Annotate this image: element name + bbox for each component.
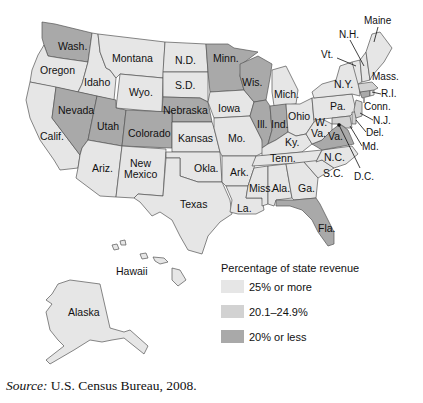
label-maine: Maine	[364, 15, 392, 26]
leader-del	[356, 120, 366, 132]
state-massachusetts	[358, 82, 378, 92]
label-vt: Vt.	[321, 49, 333, 60]
label-texas: Texas	[180, 198, 207, 210]
label-ind: Ind.	[271, 118, 289, 130]
state-new-jersey	[354, 100, 362, 118]
label-nc: N.C.	[324, 151, 345, 163]
label-sd: S.D.	[175, 79, 195, 91]
label-ga: Ga.	[298, 182, 315, 194]
label-minn: Minn.	[213, 52, 239, 64]
label-nd: N.D.	[175, 54, 196, 66]
legend-swatch-low	[221, 330, 244, 343]
state-michigan	[272, 66, 298, 106]
label-montana: Montana	[112, 52, 153, 64]
label-mass: Mass.	[372, 71, 399, 82]
source-note: Source: U.S. Census Bureau, 2008.	[6, 378, 197, 394]
legend-label-high: 25% or more	[249, 281, 312, 293]
label-ky: Ky.	[285, 136, 299, 148]
label-idaho: Idaho	[84, 76, 110, 88]
label-mo: Mo.	[228, 132, 246, 144]
state-alaska	[46, 280, 148, 364]
state-hawaii	[112, 240, 186, 286]
us-state-revenue-map: Wash. Oregon Idaho Montana Wyo. N.D. S.D…	[0, 0, 423, 403]
legend-item-low: 20% or less	[221, 330, 306, 343]
legend-swatch-mid	[221, 305, 244, 318]
label-nh: N.H.	[339, 29, 359, 40]
label-ariz: Ariz.	[92, 162, 113, 174]
label-ill: Ill.	[257, 118, 268, 130]
label-la: La.	[237, 202, 252, 214]
label-wva-2: Va.	[311, 127, 326, 139]
label-utah: Utah	[97, 120, 119, 132]
label-kansas: Kansas	[178, 132, 213, 144]
label-ri: R.I.	[381, 88, 397, 99]
legend-swatch-high	[221, 280, 244, 293]
label-sc: S.C.	[323, 167, 343, 179]
label-mich: Mich.	[274, 88, 299, 100]
label-va: Va.	[328, 130, 343, 142]
label-hawaii: Hawaii	[116, 265, 148, 277]
label-new-mexico-2: Mexico	[124, 168, 157, 180]
label-pa: Pa.	[330, 100, 346, 112]
label-nevada: Nevada	[58, 104, 94, 116]
label-conn: Conn.	[364, 101, 391, 112]
label-wis: Wis.	[242, 76, 262, 88]
label-tenn: Tenn.	[270, 152, 296, 164]
leader-nj	[360, 113, 373, 120]
label-nj: N.J.	[373, 115, 391, 126]
source-prefix: Source:	[6, 378, 47, 393]
label-calif: Calif.	[40, 130, 64, 142]
label-fla: Fla.	[318, 222, 336, 234]
label-okla: Okla.	[194, 162, 219, 174]
label-miss: Miss.	[249, 182, 274, 194]
legend-label-mid: 20.1–24.9%	[249, 306, 308, 318]
legend-item-high: 25% or more	[221, 280, 312, 293]
legend-item-mid: 20.1–24.9%	[221, 305, 308, 318]
legend-label-low: 20% or less	[249, 331, 306, 343]
label-alaska: Alaska	[68, 306, 100, 318]
source-text: U.S. Census Bureau, 2008.	[47, 378, 196, 393]
label-md: Md.	[362, 141, 379, 152]
label-iowa: Iowa	[218, 102, 240, 114]
label-oregon: Oregon	[40, 64, 75, 76]
label-wash: Wash.	[58, 40, 87, 52]
label-wyo: Wyo.	[129, 86, 153, 98]
label-del: Del.	[366, 127, 384, 138]
label-colorado: Colorado	[128, 127, 171, 139]
label-ohio: Ohio	[288, 110, 310, 122]
legend-title: Percentage of state revenue	[221, 262, 359, 274]
label-ala: Ala.	[272, 182, 290, 194]
label-ark: Ark.	[230, 166, 249, 178]
label-dc: D.C.	[354, 171, 374, 182]
label-nebraska: Nebraska	[163, 104, 208, 116]
label-ny: N.Y.	[334, 78, 353, 90]
state-rhode-island	[370, 90, 374, 96]
